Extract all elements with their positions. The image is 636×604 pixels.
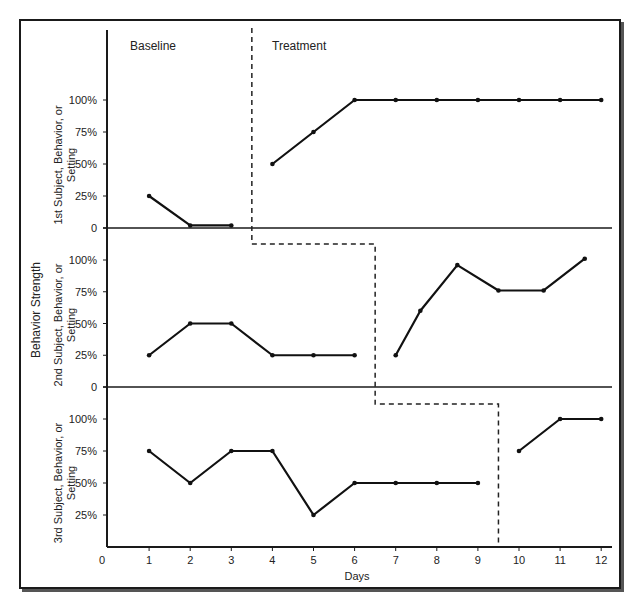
y-tick-label: 75% xyxy=(75,126,97,138)
svg-text:3rd Subject, Behavior, or: 3rd Subject, Behavior, or xyxy=(52,422,64,543)
data-point xyxy=(188,223,193,228)
x-tick-label: 10 xyxy=(513,554,525,566)
baseline-label: Baseline xyxy=(130,39,176,53)
panel-2-baseline-line xyxy=(149,324,355,356)
data-point xyxy=(352,98,357,103)
data-point xyxy=(558,417,563,422)
treatment-label: Treatment xyxy=(272,39,327,53)
x-tick-label: 5 xyxy=(310,554,316,566)
panel-2-treatment-line xyxy=(396,259,585,356)
y-tick-label: 25% xyxy=(75,190,97,202)
data-point xyxy=(229,321,234,326)
data-point xyxy=(393,353,398,358)
data-point xyxy=(517,98,522,103)
data-point xyxy=(352,353,357,358)
data-point xyxy=(455,263,460,268)
data-point xyxy=(270,162,275,167)
data-point xyxy=(393,481,398,486)
x-tick-label: 3 xyxy=(228,554,234,566)
data-point xyxy=(270,449,275,454)
data-point xyxy=(188,321,193,326)
y-tick-label: 50% xyxy=(75,158,97,170)
data-point xyxy=(229,223,234,228)
data-series xyxy=(147,98,604,518)
panel-3-treatment-line xyxy=(519,419,601,451)
data-point xyxy=(517,449,522,454)
x-tick-label: 4 xyxy=(269,554,275,566)
x-tick-label: 7 xyxy=(393,554,399,566)
panel-1-treatment-line xyxy=(272,100,601,164)
svg-text:Setting: Setting xyxy=(65,466,77,500)
multiple-baseline-chart: 025%50%75%100%025%50%75%100%25%50%75%100… xyxy=(0,0,636,604)
panel-3-baseline-line xyxy=(149,451,478,515)
x-tick-label: 8 xyxy=(434,554,440,566)
data-point xyxy=(311,130,316,135)
data-point xyxy=(435,481,440,486)
data-point xyxy=(270,353,275,358)
data-point xyxy=(393,98,398,103)
x-tick-label: 9 xyxy=(475,554,481,566)
x-tick-label: 2 xyxy=(187,554,193,566)
data-point xyxy=(311,513,316,518)
data-point xyxy=(147,353,152,358)
data-point xyxy=(599,98,604,103)
axis-labels: Baseline Treatment Days Behavior Strengt… xyxy=(29,39,370,582)
data-point xyxy=(311,353,316,358)
data-point xyxy=(476,481,481,486)
x-tick-label: 1 xyxy=(146,554,152,566)
data-point xyxy=(418,309,423,314)
y-tick-label: 25% xyxy=(75,349,97,361)
panel-label: 2nd Subject, Behavior, orSetting xyxy=(52,263,77,386)
panel-1-baseline-line xyxy=(149,196,231,225)
y-tick-label: 50% xyxy=(75,477,97,489)
data-point xyxy=(147,194,152,199)
y-axis-title: Behavior Strength xyxy=(29,262,43,358)
y-tick-label: 75% xyxy=(75,445,97,457)
data-point xyxy=(558,98,563,103)
y-tick-label: 100% xyxy=(69,94,97,106)
phase-change-lines xyxy=(252,28,499,547)
x-tick-label: 0 xyxy=(99,554,105,566)
x-tick-label: 6 xyxy=(352,554,358,566)
svg-text:2nd Subject, Behavior, or: 2nd Subject, Behavior, or xyxy=(52,263,64,386)
y-tick-label: 100% xyxy=(69,413,97,425)
svg-text:Setting: Setting xyxy=(65,148,77,182)
data-point xyxy=(541,288,546,293)
data-point xyxy=(599,417,604,422)
data-point xyxy=(147,449,152,454)
data-point xyxy=(188,481,193,486)
svg-text:1st Subject, Behavior, or: 1st Subject, Behavior, or xyxy=(52,105,64,225)
panel-label: 3rd Subject, Behavior, orSetting xyxy=(52,422,77,543)
x-tick-label: 11 xyxy=(554,554,565,566)
y-tick-label: 75% xyxy=(75,286,97,298)
phase-change-line xyxy=(252,28,499,547)
y-tick-label: 0 xyxy=(91,381,97,393)
y-tick-label: 25% xyxy=(75,509,97,521)
data-point xyxy=(476,98,481,103)
y-tick-label: 0 xyxy=(91,222,97,234)
x-axis-title: Days xyxy=(344,570,370,582)
svg-text:Setting: Setting xyxy=(65,308,77,342)
data-point xyxy=(496,288,501,293)
data-point xyxy=(582,256,587,261)
y-tick-label: 100% xyxy=(69,254,97,266)
data-point xyxy=(352,481,357,486)
panel-label: 1st Subject, Behavior, orSetting xyxy=(52,105,77,225)
y-tick-label: 50% xyxy=(75,318,97,330)
x-tick-label: 12 xyxy=(595,554,607,566)
data-point xyxy=(229,449,234,454)
data-point xyxy=(435,98,440,103)
